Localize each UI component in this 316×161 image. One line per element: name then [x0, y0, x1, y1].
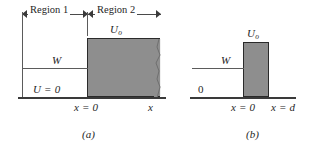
panel-b-energy-level-line	[192, 68, 244, 69]
panel-a-zero-potential-label: U = 0	[33, 83, 60, 95]
panel-b-x-width-label: x = d	[271, 101, 295, 113]
region-2-label: Region 2	[95, 4, 137, 15]
panel-a-u-naught-label: Uo	[110, 23, 122, 37]
region-1-label: Region 1	[28, 4, 70, 15]
panel-b-potential-barrier-block	[243, 42, 269, 97]
region-2-left-arrow-icon	[88, 10, 93, 18]
panel-a-w-label: W	[52, 54, 61, 66]
panel-a-potential-step-block	[87, 38, 160, 97]
panel-a-left-guide	[22, 12, 23, 98]
panel-a-energy-level-line	[22, 68, 88, 69]
panel-a-x-far-label: x	[148, 101, 153, 113]
panel-b-caption: (b)	[246, 128, 259, 140]
region-2-right-arrow-icon	[156, 10, 161, 18]
panel-b-u-naught-label: Uo	[247, 27, 259, 41]
panel-b-x-axis	[190, 97, 296, 99]
figure-canvas: Region 1 Region 2 Uo W U = 0 x = 0 x (a)…	[0, 0, 316, 161]
panel-b-zero-label: 0	[198, 83, 204, 95]
ragged-edge-shape-icon	[154, 39, 162, 98]
region-1-measure: Region 1	[22, 10, 88, 19]
region-boundary-tick	[87, 12, 88, 36]
panel-b-x-origin-label: x = 0	[231, 101, 255, 113]
region-2-measure: Region 2	[88, 10, 161, 19]
panel-b-w-label: W	[221, 54, 230, 66]
panel-a-block-ragged-edge	[154, 39, 161, 96]
panel-a-caption: (a)	[82, 128, 95, 140]
panel-a-x-axis	[18, 97, 166, 99]
panel-a-x-origin-label: x = 0	[74, 101, 98, 113]
